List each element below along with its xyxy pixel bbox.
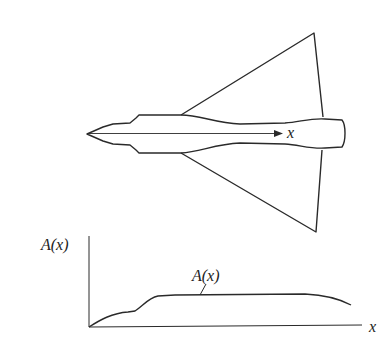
arrow-head-icon bbox=[274, 130, 283, 137]
upper-wing bbox=[181, 33, 323, 117]
lower-wing bbox=[181, 150, 322, 232]
aircraft-planform bbox=[87, 33, 345, 232]
curve-label-leader bbox=[200, 284, 206, 295]
curve-label: A(x) bbox=[191, 267, 220, 285]
fuselage bbox=[87, 115, 345, 153]
area-curve bbox=[89, 294, 351, 327]
area-rule-diagram: x A(x) x A(x) bbox=[0, 0, 392, 352]
plot-y-label: A(x) bbox=[40, 236, 69, 254]
aircraft-x-label: x bbox=[286, 124, 294, 141]
plot-x-label: x bbox=[368, 318, 376, 335]
area-plot: A(x) x A(x) bbox=[40, 236, 376, 335]
plot-x-axis bbox=[89, 325, 362, 327]
